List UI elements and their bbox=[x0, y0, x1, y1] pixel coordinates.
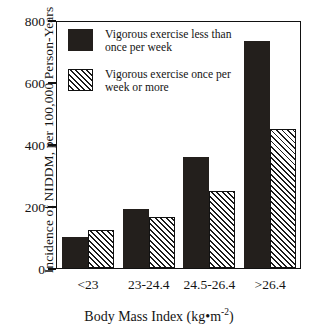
bar-hatch bbox=[149, 217, 175, 268]
x-axis-tick-label: >26.4 bbox=[240, 277, 301, 293]
legend-label-hatch-line2: week or more bbox=[105, 82, 278, 95]
chart-legend: Vigorous exercise less than once per wee… bbox=[68, 28, 278, 108]
legend-item-solid: Vigorous exercise less than once per wee… bbox=[68, 28, 278, 54]
x-axis-tick-label: 24.5-26.4 bbox=[179, 277, 240, 293]
y-axis-tick-mark bbox=[48, 206, 56, 208]
y-axis-tick-label: 200 bbox=[25, 200, 45, 215]
legend-item-hatch: Vigorous exercise once per week or more bbox=[68, 68, 278, 94]
legend-label-solid-line1: Vigorous exercise less than bbox=[105, 28, 231, 41]
bar-solid bbox=[183, 157, 209, 268]
y-axis-tick-mark bbox=[48, 268, 56, 270]
x-axis-title: Body Mass Index (kg•m-2) bbox=[0, 307, 318, 325]
chart-figure: Incidence of NIDDM, per 100,000 Person-Y… bbox=[0, 0, 318, 336]
legend-swatch-solid bbox=[68, 29, 93, 51]
y-axis-tick-label: 0 bbox=[38, 262, 45, 277]
bar-hatch bbox=[270, 129, 296, 268]
x-axis-tick-label: <23 bbox=[58, 277, 119, 293]
legend-label-hatch-line1: Vigorous exercise once per bbox=[105, 68, 231, 81]
y-axis-tick-label: 600 bbox=[25, 76, 45, 91]
legend-swatch-hatch bbox=[68, 69, 93, 91]
y-axis-tick-label: 400 bbox=[25, 138, 45, 153]
y-axis-tick-mark bbox=[48, 82, 56, 84]
x-axis-tick-label: 23-24.4 bbox=[118, 277, 179, 293]
x-axis-title-close: ) bbox=[229, 309, 234, 324]
bar-hatch bbox=[209, 191, 235, 268]
x-axis-title-base: Body Mass Index (kg•m bbox=[84, 309, 221, 324]
bar-hatch bbox=[88, 230, 114, 268]
legend-label-solid: Vigorous exercise less than once per wee… bbox=[105, 28, 278, 54]
bar-solid bbox=[62, 237, 88, 268]
bar-solid bbox=[123, 209, 149, 268]
legend-label-hatch: Vigorous exercise once per week or more bbox=[105, 68, 278, 94]
y-axis-tick-label: 800 bbox=[25, 14, 45, 29]
y-axis-tick-mark bbox=[48, 144, 56, 146]
y-axis-tick-mark bbox=[48, 20, 56, 22]
x-axis-tick-labels: <2323-24.424.5-26.4>26.4 bbox=[56, 277, 301, 295]
legend-label-solid-line2: once per week bbox=[105, 42, 278, 55]
x-axis-title-exponent: -2 bbox=[221, 307, 229, 317]
